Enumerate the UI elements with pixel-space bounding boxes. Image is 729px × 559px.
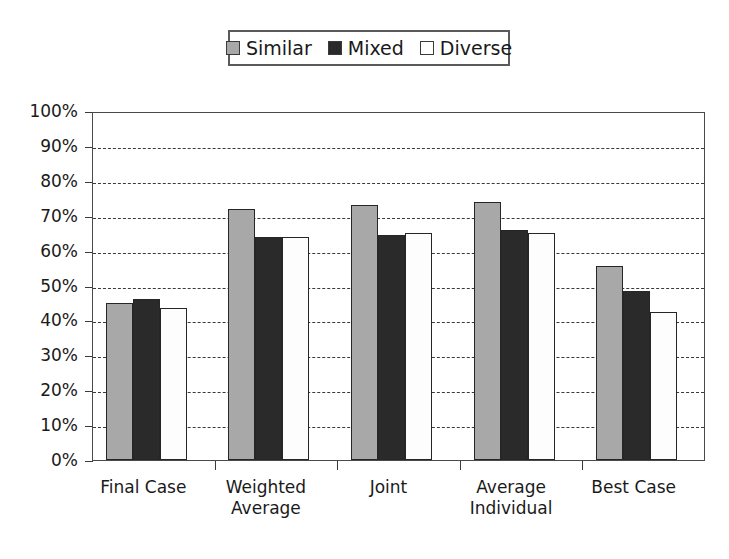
bar — [596, 266, 623, 460]
bar — [255, 237, 282, 460]
legend-entry-mixed: Mixed — [328, 39, 404, 58]
y-axis-tick-label: 0% — [20, 452, 78, 469]
legend-label-diverse: Diverse — [440, 39, 512, 58]
x-axis-category-label: Joint — [327, 477, 450, 498]
x-axis-category-label: Best Case — [572, 477, 695, 498]
y-axis-tick-label: 50% — [20, 278, 78, 295]
bar — [282, 237, 309, 460]
bar-chart: Similar Mixed Diverse 100%90%80%70%60%50… — [0, 0, 729, 559]
x-axis-separator-tick — [460, 461, 461, 470]
bar — [228, 209, 255, 460]
gridline — [93, 218, 704, 219]
y-axis-tick-label: 40% — [20, 312, 78, 329]
bar — [623, 291, 650, 460]
legend-swatch-diverse — [420, 41, 434, 55]
bar — [528, 233, 555, 460]
y-axis-tick-label: 10% — [20, 417, 78, 434]
legend-entry-diverse: Diverse — [420, 39, 512, 58]
x-axis-category-label: Final Case — [82, 477, 205, 498]
x-axis-separator-tick — [582, 461, 583, 470]
legend-swatch-similar — [226, 41, 240, 55]
chart-legend: Similar Mixed Diverse — [228, 30, 510, 66]
y-axis-tick-label: 30% — [20, 347, 78, 364]
gridline — [93, 183, 704, 184]
y-axis-tick-label: 60% — [20, 243, 78, 260]
x-axis-category-label: Weighted Average — [205, 477, 328, 519]
legend-swatch-mixed — [328, 41, 342, 55]
plot-area — [92, 112, 705, 461]
x-axis-separator-tick — [215, 461, 216, 470]
bar — [133, 299, 160, 460]
bar — [378, 235, 405, 460]
legend-entry-similar: Similar — [226, 39, 312, 58]
bar — [650, 312, 677, 460]
y-axis-tick-mark — [85, 461, 93, 462]
x-axis-category-label: Average Individual — [450, 477, 573, 519]
y-axis-tick-label: 100% — [20, 103, 78, 120]
legend-label-mixed: Mixed — [348, 39, 404, 58]
bar — [106, 303, 133, 460]
bar — [351, 205, 378, 460]
legend-label-similar: Similar — [246, 39, 312, 58]
gridline — [93, 148, 704, 149]
y-axis-tick-label: 70% — [20, 208, 78, 225]
bar — [160, 308, 187, 460]
bar — [474, 202, 501, 460]
bar — [405, 233, 432, 460]
y-axis-tick-label: 80% — [20, 173, 78, 190]
bar — [501, 230, 528, 460]
y-axis-tick-label: 20% — [20, 382, 78, 399]
y-axis-tick-label: 90% — [20, 138, 78, 155]
x-axis-separator-tick — [337, 461, 338, 470]
